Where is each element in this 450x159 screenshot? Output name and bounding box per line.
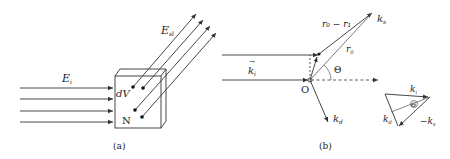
inset-k-i-vector [385,94,428,97]
inset-k-i-label: ki [410,84,417,95]
incident-rays [20,88,113,122]
inset-k-d-label: kd [383,114,392,125]
origin-label: O [301,84,309,95]
scatterer-count-label: N [122,115,131,126]
k-d-label: kd [333,113,343,125]
r0-minus-r1-label: r₀ − r₁ [322,19,351,29]
caption-b: (b) [319,141,332,151]
scattered-field-label: Esl [160,24,174,37]
scattering-diagram: Ei Esl dV N (a) ki → [0,0,450,159]
caption-a: (a) [113,141,125,151]
theta-arc [324,65,331,80]
incident-field-label: Ei [61,72,72,85]
k-i-label: ki [248,65,256,77]
panel-b: ki → O r₀ − r₁ r0 ks Θ kd (b) [222,13,386,151]
inset-theta-label: Θ [411,101,416,108]
k-s-label: ks [377,13,386,25]
inset-minus-k-s-label: −ks [420,116,436,127]
volume-element-label: dV [116,88,131,99]
r0-label: r0 [346,44,354,55]
panel-a: Ei Esl dV N (a) [20,14,216,151]
vector-arrow-mark: → [249,58,255,66]
theta-label: Θ [334,65,341,75]
k-d-vector [310,80,328,122]
